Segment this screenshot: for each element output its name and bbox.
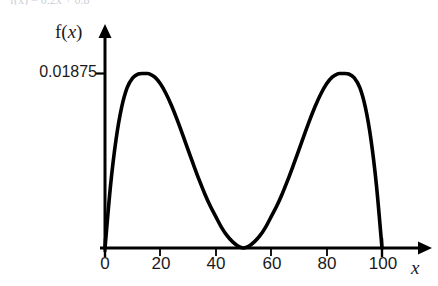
- x-tick-label-100: 100: [369, 255, 397, 272]
- x-tick-label-0: 0: [100, 255, 109, 272]
- plot-canvas: [0, 0, 438, 286]
- x-tick-label-60: 60: [263, 255, 282, 272]
- y-tick-label-0: 0.01875: [39, 64, 97, 80]
- function-plot-figure: f(x) = 0.2x + 0.8 f(x) x: [0, 0, 438, 286]
- x-tick-label-80: 80: [318, 255, 337, 272]
- x-tick-label-20: 20: [152, 255, 171, 272]
- y-axis-label-variable: x: [68, 21, 76, 42]
- function-curve: [105, 73, 382, 248]
- y-axis: [99, 24, 112, 252]
- y-axis-label-text: f(x): [55, 21, 82, 42]
- x-tick-label-40: 40: [207, 255, 226, 272]
- y-axis-label: f(x): [55, 22, 82, 41]
- x-axis-label: x: [411, 258, 419, 277]
